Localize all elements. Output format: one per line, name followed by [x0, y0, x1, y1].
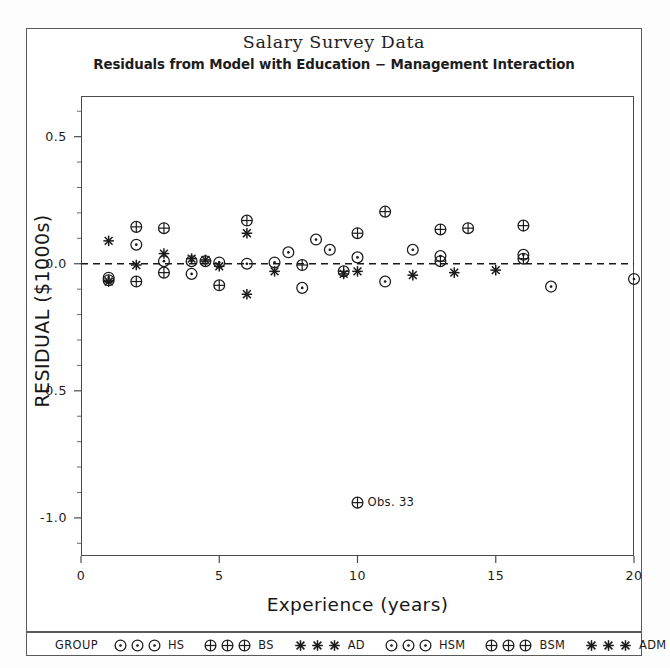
x-tick-label: 15 [476, 568, 516, 583]
y-tick-label: -1.0 [13, 510, 67, 525]
chart-title: Salary Survey Data [26, 31, 642, 53]
legend: GROUP HSBSADHSMBSMADM [26, 632, 642, 656]
circle-plus-icon [502, 639, 515, 652]
star-icon [311, 639, 324, 652]
star-icon [328, 639, 341, 652]
circle-plus-icon [485, 639, 498, 652]
star-icon [585, 639, 598, 652]
legend-entry-label: HS [168, 638, 184, 652]
circle-dot-icon [385, 639, 398, 652]
legend-entry-bs[interactable]: BS [204, 638, 273, 652]
legend-entries: HSBSADHSMBSMADM [114, 638, 670, 652]
circle-dot-icon [148, 639, 161, 652]
legend-content: GROUP HSBSADHSMBSMADM [27, 633, 643, 657]
x-tick-label: 0 [61, 568, 101, 583]
chart-subtitle: Residuals from Model with Education − Ma… [26, 55, 642, 75]
legend-symbols [385, 639, 432, 652]
legend-symbols [114, 639, 161, 652]
legend-title: GROUP [55, 638, 98, 652]
star-icon [619, 639, 632, 652]
x-tick-label: 20 [614, 568, 654, 583]
y-axis-label: RESIDUAL ($1000s) [31, 121, 53, 501]
legend-entry-label: HSM [439, 638, 466, 652]
legend-symbols [585, 639, 632, 652]
star-icon [294, 639, 307, 652]
circle-plus-icon [519, 639, 532, 652]
legend-entry-label: BSM [539, 638, 565, 652]
legend-symbols [485, 639, 532, 652]
legend-entry-label: AD [348, 638, 365, 652]
legend-entry-hs[interactable]: HS [114, 638, 184, 652]
star-icon [602, 639, 615, 652]
title-block: Salary Survey Data Residuals from Model … [26, 31, 642, 75]
legend-symbols [294, 639, 341, 652]
circle-dot-icon [402, 639, 415, 652]
legend-entry-ad[interactable]: AD [294, 638, 365, 652]
plot-frame [81, 96, 634, 556]
legend-entry-label: ADM [639, 638, 666, 652]
circle-dot-icon [131, 639, 144, 652]
circle-plus-icon [221, 639, 234, 652]
x-axis-label: Experience (years) [81, 594, 634, 615]
circle-plus-icon [238, 639, 251, 652]
figure-root: Salary Survey Data Residuals from Model … [0, 0, 670, 668]
outlier-annotation: Obs. 33 [368, 495, 415, 509]
legend-entry-hsm[interactable]: HSM [385, 638, 466, 652]
x-tick-label: 10 [338, 568, 378, 583]
legend-entry-label: BS [258, 638, 273, 652]
legend-entry-adm[interactable]: ADM [585, 638, 666, 652]
legend-symbols [204, 639, 251, 652]
circle-plus-icon [204, 639, 217, 652]
circle-dot-icon [114, 639, 127, 652]
legend-entry-bsm[interactable]: BSM [485, 638, 565, 652]
circle-dot-icon [419, 639, 432, 652]
x-tick-label: 5 [199, 568, 239, 583]
